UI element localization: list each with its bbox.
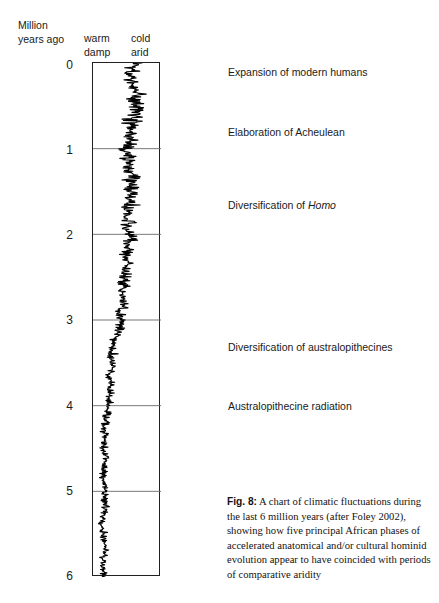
event-label-text: Diversification of	[228, 199, 308, 211]
x-axis-label-left: warm damp	[84, 32, 110, 59]
climate-figure: ▪▪▪ ▪▪ ▪▪ ▪▪▪ ▪▪ ▪▪ ▪▪▪ ▪▪ ▪▪ ▪▪ ▪▪▪ ▪▪ …	[0, 0, 439, 603]
event-label-text: Expansion of modern humans	[228, 66, 368, 78]
y-axis-tick-1: 1	[43, 144, 73, 156]
figure-caption: Fig. 8: A chart of climatic fluctuations…	[227, 495, 435, 583]
event-label-2: Diversification of Homo	[228, 199, 336, 212]
y-axis-title-line2: years ago	[18, 33, 64, 47]
event-label-text: Australopithecine radiation	[228, 400, 352, 412]
event-label-text: Diversification of australopithecines	[228, 341, 393, 353]
x-axis-label-left-line1: warm	[84, 32, 110, 46]
figure-caption-text: A chart of climatic fluctuations during …	[227, 496, 431, 580]
figure-caption-label: Fig. 8:	[227, 496, 257, 507]
event-label-text: Elaboration of Acheulean	[228, 126, 345, 138]
y-axis-title: Million years ago	[18, 19, 64, 46]
y-axis-title-line1: Million	[18, 19, 64, 33]
event-label-0: Expansion of modern humans	[228, 66, 368, 79]
event-label-taxon: Homo	[308, 199, 336, 211]
y-axis-tick-4: 4	[43, 400, 73, 412]
x-axis-label-left-line2: damp	[84, 46, 110, 60]
x-axis-label-right-line2: arid	[131, 46, 150, 60]
y-axis-tick-3: 3	[43, 314, 73, 326]
x-axis-label-right-line1: cold	[131, 32, 150, 46]
climate-curve-svg	[93, 63, 161, 577]
y-axis-tick-5: 5	[43, 485, 73, 497]
cropped-header-bleed-text: ▪▪▪ ▪▪ ▪▪ ▪▪▪ ▪▪ ▪▪ ▪▪▪ ▪▪ ▪▪ ▪▪ ▪▪▪ ▪▪ …	[16, 0, 162, 1]
y-axis-tick-6: 6	[43, 570, 73, 582]
y-axis-tick-0: 0	[43, 59, 73, 71]
gridlines	[93, 149, 161, 492]
plot-area	[92, 62, 160, 576]
event-label-3: Diversification of australopithecines	[228, 341, 393, 354]
y-axis-tick-2: 2	[43, 229, 73, 241]
event-label-4: Australopithecine radiation	[228, 400, 352, 413]
x-axis-label-right: cold arid	[131, 32, 150, 59]
event-label-1: Elaboration of Acheulean	[228, 126, 345, 139]
